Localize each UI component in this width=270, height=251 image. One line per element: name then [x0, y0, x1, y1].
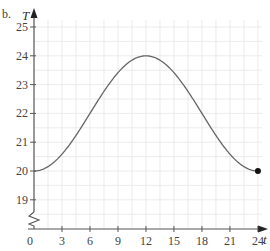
y-tick-label: 23: [16, 78, 28, 92]
x-tick-label: 21: [224, 234, 236, 248]
x-tick-label: 9: [115, 234, 121, 248]
x-tick-label: 15: [168, 234, 180, 248]
x-tick-label: 3: [59, 234, 65, 248]
y-axis-title: T: [22, 8, 30, 23]
y-tick-label: 19: [16, 193, 28, 207]
chart: 0369121518212419202122232425 b. T t: [0, 0, 270, 251]
grid: [34, 20, 262, 229]
panel-label: b.: [2, 7, 11, 21]
x-axis-title: t: [263, 232, 267, 247]
x-tick-label: 0: [27, 234, 33, 248]
x-tick-label: 6: [87, 234, 93, 248]
x-tick-label: 18: [196, 234, 208, 248]
y-axis-arrow-icon: [31, 8, 38, 18]
x-tick-label: 12: [140, 234, 152, 248]
y-tick-label: 22: [16, 106, 28, 120]
y-tick-label: 24: [16, 49, 28, 63]
y-tick-label: 21: [16, 135, 28, 149]
y-tick-label: 20: [16, 164, 28, 178]
closed-endpoint-marker: [255, 168, 261, 174]
